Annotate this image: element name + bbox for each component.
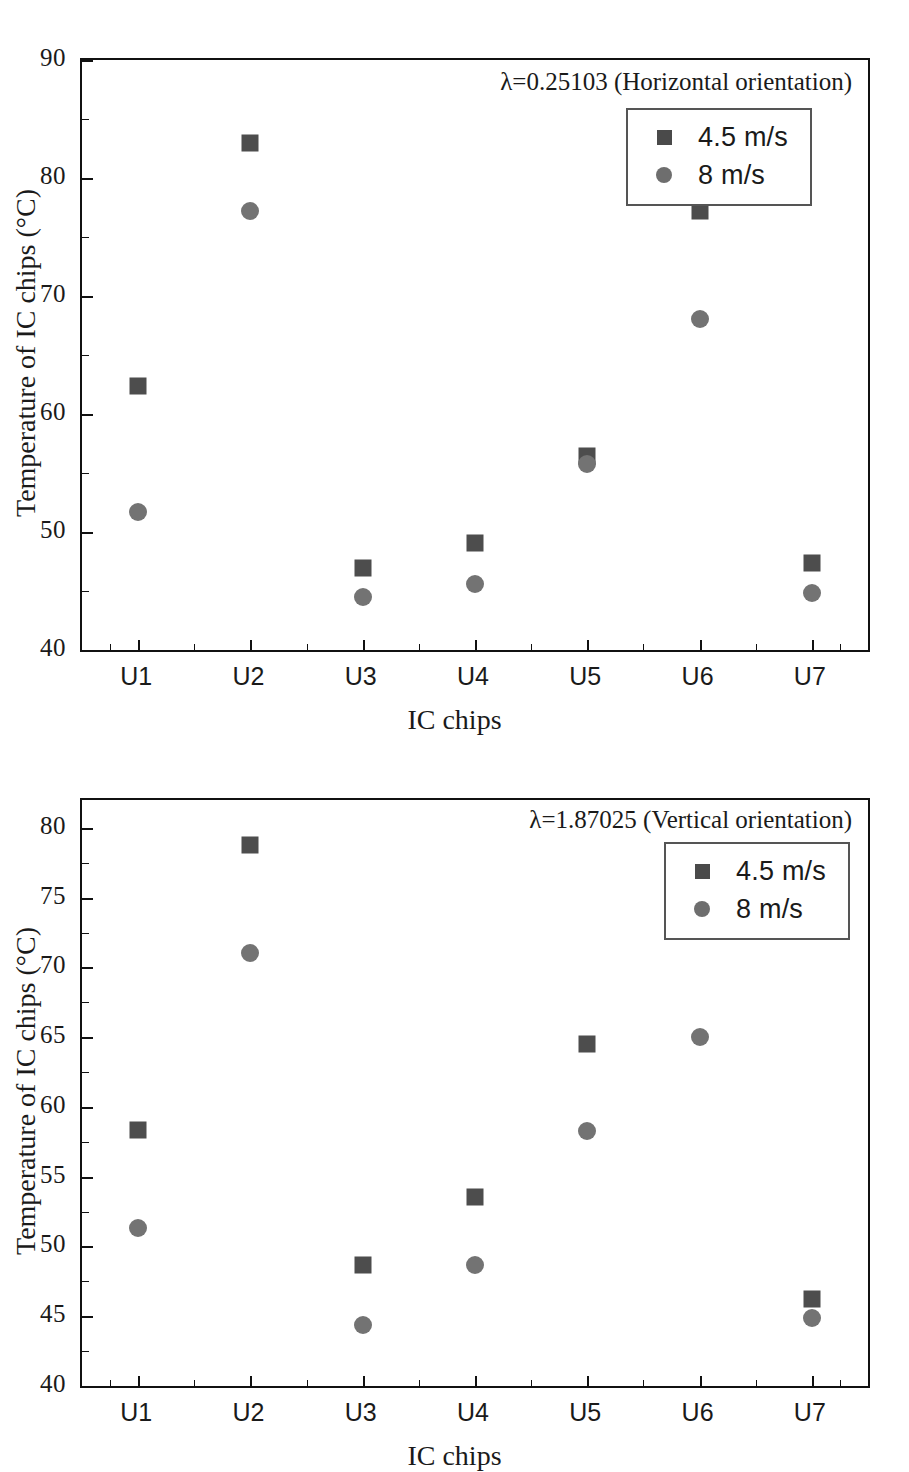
data-point: [242, 837, 259, 858]
circle-marker-icon: [644, 167, 684, 183]
legend-item-8ms-bottom: 8 m/s: [682, 890, 826, 928]
y-tick-label: 40: [40, 1370, 66, 1398]
y-tick-label: 45: [40, 1300, 66, 1328]
y-tick-major: [82, 967, 93, 969]
data-point: [241, 202, 259, 224]
y-tick-major: [82, 1386, 93, 1388]
y-tick-major: [82, 1177, 93, 1179]
x-tick-major: [250, 1376, 252, 1386]
data-point: [578, 1122, 596, 1144]
data-point: [241, 944, 259, 966]
y-axis-title-bottom: Temperature of IC chips (°C): [10, 927, 42, 1255]
x-tick-minor: [419, 644, 420, 650]
legend-label: 4.5 m/s: [736, 856, 826, 887]
x-tick-label: U1: [120, 1398, 152, 1427]
x-tick-label: U4: [457, 662, 489, 691]
data-point: [466, 1256, 484, 1278]
data-point: [691, 1028, 709, 1050]
x-tick-label: U7: [794, 662, 826, 691]
y-tick-major: [82, 1246, 93, 1248]
y-tick-minor: [82, 1072, 89, 1073]
y-tick-minor: [82, 1142, 89, 1143]
y-tick-minor: [82, 1212, 89, 1213]
y-tick-major: [82, 828, 93, 830]
data-point: [354, 1257, 371, 1278]
y-tick-label: 50: [40, 516, 66, 544]
y-tick-major: [82, 898, 93, 900]
x-tick-major: [138, 640, 140, 650]
legend-bottom: 4.5 m/s 8 m/s: [664, 842, 850, 940]
x-tick-label: U5: [569, 1398, 601, 1427]
x-tick-label: U6: [682, 662, 714, 691]
x-tick-minor: [643, 644, 644, 650]
data-point: [803, 1290, 820, 1311]
x-tick-label: U3: [345, 662, 377, 691]
legend-label: 8 m/s: [736, 894, 803, 925]
data-point: [130, 378, 147, 399]
annotation-lambda-top: λ=0.25103 (Horizontal orientation): [500, 68, 852, 96]
y-tick-major: [82, 532, 93, 534]
chart-panel-vertical: λ=1.87025 (Vertical orientation) 4.5 m/s…: [0, 740, 909, 1466]
x-tick-minor: [756, 644, 757, 650]
y-tick-label: 50: [40, 1230, 66, 1258]
data-point: [130, 1122, 147, 1143]
y-tick-minor: [82, 1002, 89, 1003]
x-tick-minor: [194, 1380, 195, 1386]
legend-item-8ms-top: 8 m/s: [644, 156, 788, 194]
x-tick-major: [138, 1376, 140, 1386]
data-point: [579, 1035, 596, 1056]
plot-area-bottom: λ=1.87025 (Vertical orientation) 4.5 m/s…: [80, 798, 870, 1388]
data-point: [354, 559, 371, 580]
y-tick-label: 60: [40, 398, 66, 426]
data-point: [691, 310, 709, 332]
y-tick-major: [82, 650, 93, 652]
y-tick-minor: [82, 1351, 89, 1352]
x-tick-minor: [643, 1380, 644, 1386]
x-tick-major: [363, 640, 365, 650]
y-tick-minor: [82, 473, 89, 474]
x-tick-minor: [419, 1380, 420, 1386]
data-point: [467, 534, 484, 555]
x-tick-label: U5: [569, 662, 601, 691]
data-point: [803, 584, 821, 606]
y-tick-minor: [82, 863, 89, 864]
y-tick-major: [82, 296, 93, 298]
y-tick-label: 70: [40, 280, 66, 308]
x-tick-minor: [531, 1380, 532, 1386]
x-tick-major: [250, 640, 252, 650]
y-tick-minor: [82, 933, 89, 934]
y-tick-label: 55: [40, 1161, 66, 1189]
data-point: [803, 555, 820, 576]
data-point: [467, 1189, 484, 1210]
x-tick-minor: [110, 644, 111, 650]
data-point: [242, 134, 259, 155]
chart-panel-horizontal: λ=0.25103 (Horizontal orientation) 4.5 m…: [0, 0, 909, 740]
x-tick-major: [587, 640, 589, 650]
x-axis-title-top: IC chips: [0, 704, 909, 736]
x-tick-minor: [194, 644, 195, 650]
square-marker-icon: [682, 864, 722, 879]
legend-label: 8 m/s: [698, 160, 765, 191]
y-tick-label: 70: [40, 951, 66, 979]
data-point: [578, 455, 596, 477]
x-tick-major: [812, 640, 814, 650]
y-tick-label: 80: [40, 162, 66, 190]
x-tick-major: [587, 1376, 589, 1386]
y-tick-minor: [82, 119, 89, 120]
y-tick-minor: [82, 237, 89, 238]
annotation-lambda-bottom: λ=1.87025 (Vertical orientation): [529, 806, 852, 834]
y-tick-minor: [82, 355, 89, 356]
x-axis-title-bottom: IC chips: [0, 1440, 909, 1472]
data-point: [354, 588, 372, 610]
circle-marker-icon: [682, 901, 722, 917]
y-tick-major: [82, 60, 93, 62]
plot-area-top: λ=0.25103 (Horizontal orientation) 4.5 m…: [80, 58, 870, 652]
x-tick-minor: [531, 644, 532, 650]
y-tick-label: 65: [40, 1021, 66, 1049]
data-point: [129, 503, 147, 525]
x-tick-label: U2: [232, 1398, 264, 1427]
x-tick-label: U1: [120, 662, 152, 691]
x-tick-label: U7: [794, 1398, 826, 1427]
x-tick-label: U3: [345, 1398, 377, 1427]
x-tick-major: [475, 1376, 477, 1386]
